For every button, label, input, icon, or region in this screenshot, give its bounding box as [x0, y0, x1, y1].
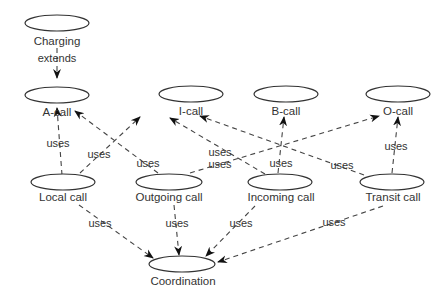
edge-outgoing-uses-coordination: uses	[165, 205, 189, 255]
node-label: A-call	[43, 106, 72, 118]
edges: extends uses uses uses uses uses	[38, 48, 408, 262]
node-label: Local call	[39, 191, 87, 203]
node-label: Incoming call	[247, 191, 314, 203]
use-case-diagram: extends uses uses uses uses uses	[0, 0, 443, 300]
node-o-call[interactable]: O-call	[366, 86, 430, 117]
edge-incoming-uses-b-call: uses	[269, 117, 293, 173]
node-label: Transit call	[365, 191, 420, 203]
node-label: I-call	[179, 105, 203, 117]
edge-label: extends	[38, 52, 77, 64]
node-incoming-call[interactable]: Incoming call	[247, 174, 314, 203]
edge-label: uses	[322, 216, 346, 228]
node-label: B-call	[272, 105, 301, 117]
edge-label: uses	[87, 148, 111, 160]
edge-transit-uses-coordination: uses	[218, 206, 383, 262]
edge-label: uses	[208, 146, 232, 158]
node-i-call[interactable]: I-call	[159, 86, 223, 117]
node-label: Coordination	[150, 275, 215, 287]
edge-label: uses	[88, 217, 112, 229]
edge-local-uses-coordination: uses	[79, 205, 153, 258]
edge-label: uses	[384, 140, 408, 152]
node-outgoing-call[interactable]: Outgoing call	[135, 174, 202, 203]
node-label: Outgoing call	[135, 191, 202, 203]
node-a-call[interactable]: A-call	[25, 87, 89, 118]
edge-transit-uses-o-call: uses	[384, 117, 408, 173]
edge-label: uses	[165, 217, 189, 229]
node-local-call[interactable]: Local call	[31, 174, 95, 203]
edge-label: uses	[46, 137, 70, 149]
edge-charging-extends-a-call: extends	[38, 48, 77, 78]
node-b-call[interactable]: B-call	[254, 86, 318, 117]
edge-label: uses	[330, 159, 354, 171]
node-label: Charging	[34, 35, 81, 47]
node-coordination[interactable]: Coordination	[149, 256, 216, 287]
edge-label: uses	[229, 217, 253, 229]
edge-local-uses-i-call: uses	[80, 117, 140, 173]
edge-label: uses	[136, 157, 160, 169]
edge-label: uses	[269, 157, 293, 169]
node-transit-call[interactable]: Transit call	[360, 174, 424, 203]
node-charging[interactable]: Charging	[25, 15, 89, 47]
node-label: O-call	[383, 105, 413, 117]
edge-outgoing-uses-a-call: uses	[75, 111, 160, 173]
edge-label: uses	[208, 158, 232, 170]
edge-incoming-uses-coordination: uses	[206, 206, 255, 256]
edge-local-uses-a-call: uses	[46, 108, 70, 175]
